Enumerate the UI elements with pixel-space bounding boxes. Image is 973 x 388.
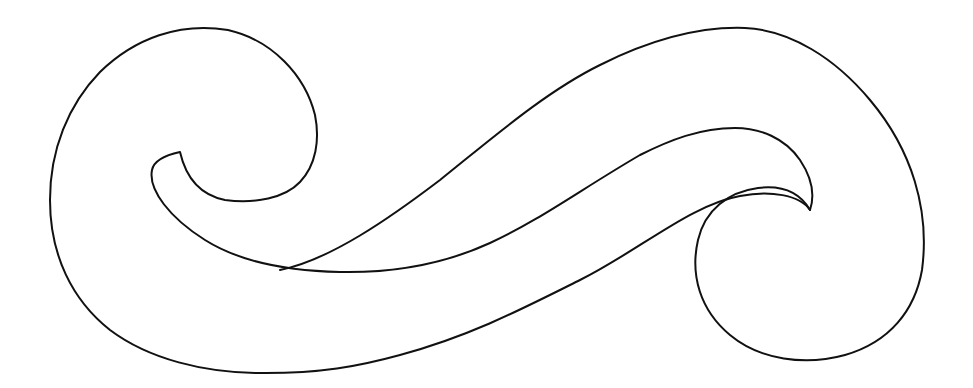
right-scroll-outline <box>280 28 924 360</box>
scroll-drawing: S-shaped scroll wave outline <box>0 0 973 388</box>
scroll-outline <box>50 28 812 373</box>
s-scroll-outline-icon <box>0 0 973 388</box>
